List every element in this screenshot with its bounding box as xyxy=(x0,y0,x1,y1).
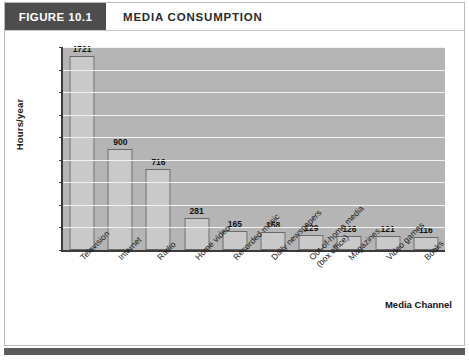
bar-value-label: 716 xyxy=(151,157,165,167)
figure-footer-rule xyxy=(4,348,465,355)
chart-area: Hours/year 17219007162811651581291261211… xyxy=(5,31,464,345)
x-axis-title: Media Channel xyxy=(385,299,452,310)
y-axis-tick-mark xyxy=(59,47,63,48)
figure-header: FIGURE 10.1 MEDIA CONSUMPTION xyxy=(5,3,464,31)
gridline xyxy=(63,70,445,71)
y-axis-title: Hours/year xyxy=(14,75,25,175)
gridline xyxy=(63,160,445,161)
y-axis-tick-mark xyxy=(59,115,63,116)
bar-series: 1721900716281165158129126121116 xyxy=(63,47,445,250)
bar-slot: 1721 xyxy=(63,47,101,250)
bar-slot: 716 xyxy=(139,47,177,250)
figure-container: FIGURE 10.1 MEDIA CONSUMPTION Hours/year… xyxy=(4,2,465,346)
gridline xyxy=(63,92,445,93)
x-axis-tick-labels: TelevisionInternetRadioHome videoRecorde… xyxy=(61,253,443,341)
bar-value-label: 121 xyxy=(381,224,395,234)
bar[interactable] xyxy=(70,56,95,250)
gridline xyxy=(63,227,445,228)
plot-area: 1721900716281165158129126121116 02004006… xyxy=(61,47,445,252)
gridline xyxy=(63,205,445,206)
gridline xyxy=(63,47,445,48)
bar-slot: 165 xyxy=(216,47,254,250)
bar-slot: 121 xyxy=(369,47,407,250)
y-axis-tick-mark xyxy=(59,70,63,71)
gridline xyxy=(63,115,445,116)
bar-value-label: 1721 xyxy=(73,44,92,54)
y-axis-tick-mark xyxy=(59,250,63,251)
y-axis-tick-mark xyxy=(59,92,63,93)
figure-number-badge: FIGURE 10.1 xyxy=(5,3,106,30)
bar-slot: 900 xyxy=(101,47,139,250)
gridline xyxy=(63,137,445,138)
gridline xyxy=(63,182,445,183)
y-axis-tick-mark xyxy=(59,137,63,138)
y-axis-tick-mark xyxy=(59,205,63,206)
y-axis-tick-mark xyxy=(59,227,63,228)
y-axis-tick-mark xyxy=(59,182,63,183)
bar-slot: 281 xyxy=(178,47,216,250)
figure-title: MEDIA CONSUMPTION xyxy=(123,3,263,30)
bar-value-label: 281 xyxy=(190,206,204,216)
bar-slot: 116 xyxy=(407,47,445,250)
y-axis-tick-mark xyxy=(59,160,63,161)
